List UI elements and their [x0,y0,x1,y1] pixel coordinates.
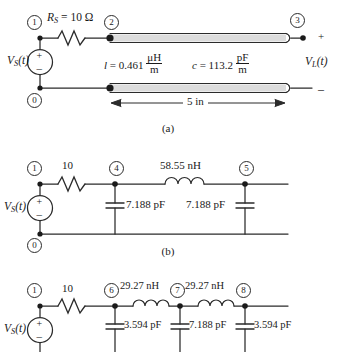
line-capacitance-label: c = 113.2 pFm [192,52,249,76]
node-marker-1c: 1 [27,283,42,298]
inductor-label-c-left: 29.27 nH [120,281,159,292]
node-marker-0b: 0 [27,238,42,253]
source-polarity-minus-a: – [37,63,43,74]
circuit-linework [0,0,337,352]
length-dimension-label: 5 in [183,96,208,107]
node-marker-5: 5 [239,161,254,176]
node-marker-4: 4 [109,161,124,176]
capacitor-label-b-left: 7.188 pF [126,199,165,210]
source-polarity-minus-b: – [37,209,43,220]
node-marker-1a: 1 [27,15,42,30]
inductor-label-c-right: 29.27 nH [185,281,224,292]
capacitor-label-c-mid: 7.188 pF [189,320,226,331]
caption-a: (a) [138,122,198,134]
figure-transmission-line-lumped-models: 1 2 3 0 RS = 10 Ω VS(t) + – l = 0.461 μH… [0,0,337,352]
node-marker-0a: 0 [27,93,42,108]
load-polarity-minus: – [318,83,324,95]
node-marker-6: 6 [104,283,119,298]
source-polarity-plus-b: + [37,197,43,207]
caption-b: (b) [138,245,198,257]
resistor-label-c: 10 [62,283,73,294]
node-marker-8: 8 [236,283,251,298]
capacitor-label-c-right: 3.594 pF [254,320,291,331]
node-marker-2: 2 [104,15,119,30]
node-marker-3: 3 [290,13,305,28]
node-marker-1b: 1 [27,161,42,176]
resistor-label-b: 10 [62,160,73,171]
source-label-c: VS(t) [4,323,26,336]
source-label-a: VS(t) [7,55,29,68]
resistor-label-rs: RS = 10 Ω [47,12,93,25]
capacitor-label-b-right: 7.188 pF [186,199,225,210]
node-marker-7: 7 [170,283,185,298]
source-label-b: VS(t) [4,201,26,214]
line-inductance-label: l = 0.461 μHm [104,52,162,76]
source-polarity-plus-c: + [37,319,43,329]
source-polarity-plus-a: + [37,51,43,61]
load-voltage-label: VL(t) [305,56,328,69]
inductor-label-b: 58.55 nH [160,160,201,171]
load-polarity-plus: + [318,31,324,42]
source-polarity-minus-c: – [37,331,43,342]
capacitor-label-c-left: 3.594 pF [124,320,161,331]
